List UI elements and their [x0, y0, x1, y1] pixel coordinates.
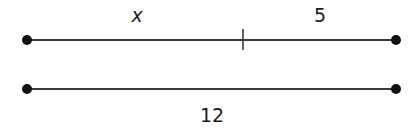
- top-left-endpoint: [22, 35, 32, 45]
- label-12: 12: [200, 104, 224, 126]
- bottom-right-endpoint: [391, 84, 401, 94]
- label-x: x: [130, 4, 143, 26]
- label-5: 5: [314, 4, 326, 26]
- bottom-segment: 12: [22, 84, 401, 126]
- top-segment: x 5: [22, 4, 401, 50]
- segment-diagram: x 5 12: [0, 0, 413, 132]
- top-right-endpoint: [391, 35, 401, 45]
- bottom-left-endpoint: [22, 84, 32, 94]
